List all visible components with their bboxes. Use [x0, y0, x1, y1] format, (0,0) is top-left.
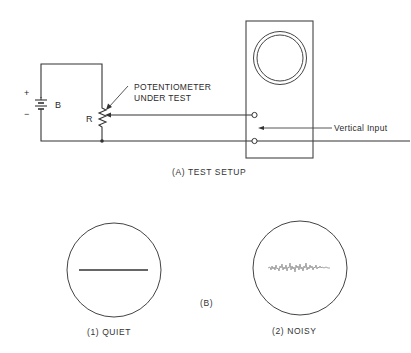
part-b-label: (B)	[200, 298, 213, 308]
noisy-screen	[253, 221, 347, 315]
wiper-arrow	[105, 113, 252, 118]
battery-plus-sign: +	[24, 88, 29, 98]
potentiometer-label: R	[86, 114, 93, 124]
oscilloscope-case	[246, 21, 313, 158]
annotation-leader-arrow	[106, 86, 128, 110]
battery-label: B	[55, 100, 61, 110]
test-setup-caption: (A) TEST SETUP	[172, 167, 246, 177]
potentiometer-icon	[99, 107, 106, 128]
junction-dot	[100, 139, 104, 143]
vertical-input-pointer	[258, 126, 332, 130]
vertical-input-label: Vertical Input	[334, 123, 388, 133]
battery-minus-sign: −	[24, 109, 29, 119]
scope-screen-outer-ring	[254, 32, 307, 85]
test-setup-circuit: + − B R POTENTIOMETER UNDER TEST	[24, 21, 410, 177]
noisy-caption: (2) NOISY	[272, 326, 317, 336]
potentiometer-annotation-line1: POTENTIOMETER	[134, 82, 211, 92]
vertical-input-terminal	[252, 112, 257, 117]
ground-terminal	[252, 138, 257, 143]
potentiometer-annotation-line2: UNDER TEST	[134, 93, 191, 103]
potentiometer-noise-test-diagram: + − B R POTENTIOMETER UNDER TEST	[0, 0, 411, 353]
battery-icon	[35, 97, 47, 109]
noisy-trace-panel: (2) NOISY	[253, 221, 347, 336]
oscilloscope	[246, 21, 313, 158]
top-wire	[41, 64, 102, 107]
quiet-caption: (1) QUIET	[87, 327, 131, 337]
noisy-trace	[268, 263, 330, 272]
scope-traces: (1) QUIET (B) (2) NOISY	[67, 221, 347, 337]
quiet-trace-panel: (1) QUIET	[67, 223, 161, 337]
scope-screen	[257, 35, 303, 81]
